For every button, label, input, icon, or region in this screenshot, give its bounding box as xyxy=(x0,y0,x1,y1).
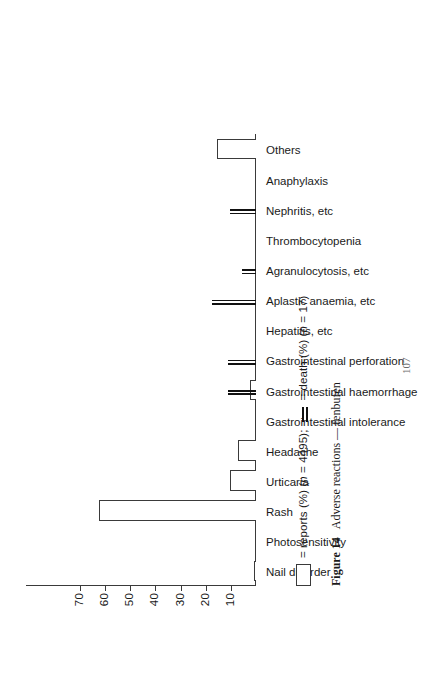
category-label: Nephritis, etc xyxy=(266,206,333,218)
legend-death-label: = death (%) (n = 17) xyxy=(298,296,310,401)
value-axis-tick-label: 10 xyxy=(225,593,237,606)
category-label: Aplastic anaemia, etc xyxy=(266,296,375,308)
category-label: Gastrointestinal perforation xyxy=(266,356,404,368)
value-axis-tick-label: 60 xyxy=(99,593,111,606)
value-axis-tick-label: 30 xyxy=(175,593,187,606)
figure-stage: 10203040506070 Nail disorderPhotosensiti… xyxy=(0,0,430,674)
legend-reports-swatch-icon xyxy=(296,564,311,586)
figure-caption: Figure 14Adverse reactions — fenbufen xyxy=(330,382,342,586)
value-axis-line xyxy=(26,585,256,586)
legend-death-swatch-icon xyxy=(297,407,310,422)
category-label: Others xyxy=(266,145,301,157)
bar-death xyxy=(228,360,256,365)
chart-plot-area: 10203040506070 Nail disorderPhotosensiti… xyxy=(60,134,256,586)
figure-number: Figure 14 xyxy=(329,537,343,586)
bar-reports xyxy=(238,440,256,460)
value-axis-tick xyxy=(80,586,81,591)
value-axis-tick xyxy=(155,586,156,591)
bar-death xyxy=(212,300,256,305)
legend-reports-label: = reports (%) (n = 4495); xyxy=(298,430,310,558)
bar-reports xyxy=(254,561,256,581)
category-label: Anaphylaxis xyxy=(266,176,328,188)
value-axis-tick-label: 70 xyxy=(74,593,86,606)
bar-death xyxy=(230,209,256,214)
category-label: Agranulocytosis, etc xyxy=(266,266,369,278)
category-label: Thrombocytopenia xyxy=(266,236,361,248)
value-axis-tick-label: 20 xyxy=(200,593,212,606)
chart-legend: = reports (%) (n = 4495); = death (%) (n… xyxy=(296,296,311,586)
bar-death xyxy=(242,269,256,274)
bar-reports xyxy=(217,139,256,159)
bar-reports xyxy=(230,470,256,490)
value-axis-tick xyxy=(206,586,207,591)
bar-reports xyxy=(99,500,256,520)
category-label: Rash xyxy=(266,507,293,519)
value-axis-tick-label: 40 xyxy=(150,593,162,606)
bar-death xyxy=(228,390,256,395)
value-axis-tick-label: 50 xyxy=(125,593,137,606)
value-axis-tick xyxy=(105,586,106,591)
value-axis-tick xyxy=(181,586,182,591)
figure-caption-text: Adverse reactions — fenbufen xyxy=(329,382,343,529)
value-axis-tick xyxy=(231,586,232,591)
value-axis-tick xyxy=(130,586,131,591)
page-number: 107 xyxy=(400,358,412,375)
